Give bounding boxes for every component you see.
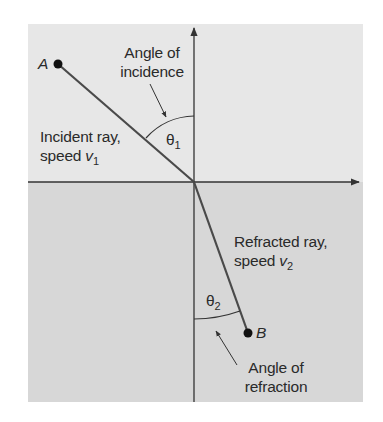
angle-of-refraction-line2: refraction: [236, 377, 316, 396]
point-b-marker: [244, 329, 253, 338]
angle-of-incidence-line2: incidence: [104, 62, 200, 81]
refracted-speed-sub: 2: [287, 260, 293, 272]
angle-of-incidence-line1: Angle of: [104, 43, 200, 62]
refracted-ray-line1: Refracted ray,: [234, 232, 327, 251]
refracted-ray-speed: speed v2: [234, 251, 327, 272]
angle-of-incidence-label: Angle of incidence: [104, 43, 200, 81]
incident-speed-sub: 1: [93, 155, 99, 167]
point-a-marker: [54, 60, 63, 69]
incident-ray-label: Incident ray, speed v1: [40, 127, 121, 167]
incident-ray-speed: speed v1: [40, 146, 121, 167]
incident-speed-word: speed: [40, 147, 81, 164]
angle-of-refraction-line1: Angle of: [236, 358, 316, 377]
refracted-speed-word: speed: [234, 252, 275, 269]
theta1-subscript: 1: [174, 139, 180, 151]
incident-ray-line1: Incident ray,: [40, 127, 121, 146]
point-a-label: A: [38, 54, 48, 73]
theta1-label: θ1: [166, 130, 180, 151]
theta2-label: θ2: [206, 291, 220, 312]
refracted-speed-var: v: [279, 252, 287, 269]
refracted-ray-label: Refracted ray, speed v2: [234, 232, 327, 272]
angle-of-refraction-label: Angle of refraction: [236, 358, 316, 396]
theta2-subscript: 2: [214, 300, 220, 312]
incident-speed-var: v: [85, 147, 93, 164]
point-b-label: B: [256, 323, 266, 342]
